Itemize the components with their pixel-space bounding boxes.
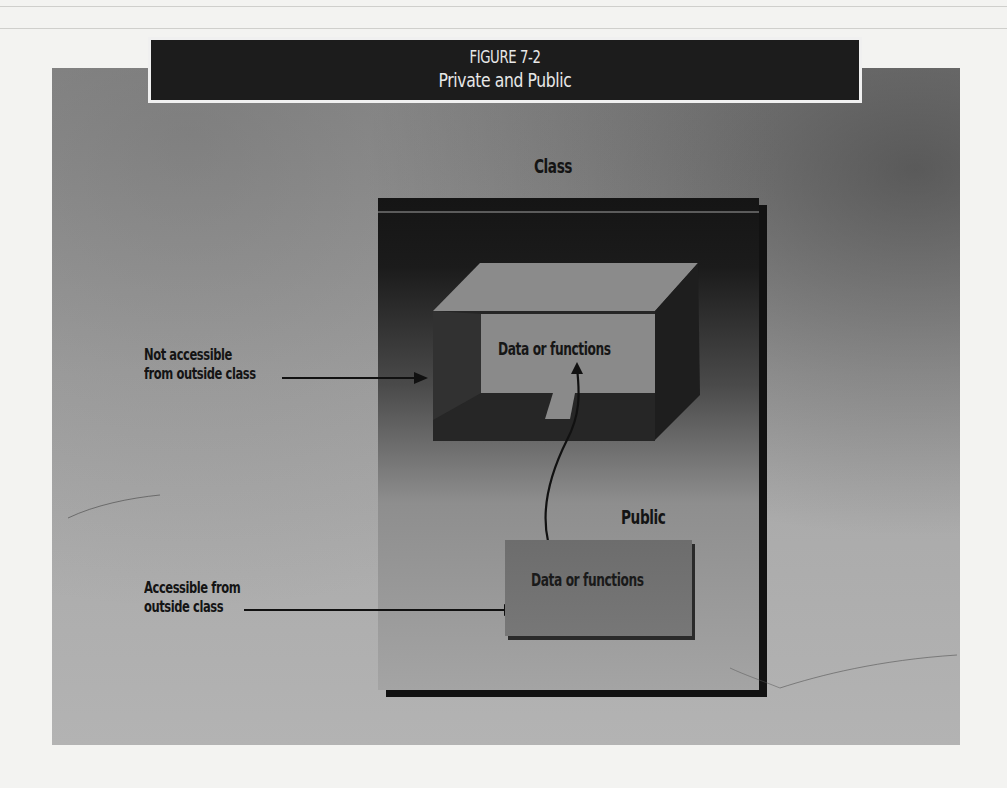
not-accessible-label: Not accessible from outside class	[144, 345, 256, 383]
not-accessible-arrowhead	[414, 372, 428, 384]
public-data-text: Data or functions	[531, 570, 644, 590]
public-label: Public	[621, 506, 665, 528]
not-accessible-line-2: from outside class	[144, 364, 256, 383]
private-section-graphic	[0, 0, 1007, 788]
scratch-mark	[730, 668, 780, 688]
not-accessible-line-1: Not accessible	[144, 345, 256, 364]
accessible-line-1: Accessible from	[144, 578, 240, 597]
private-data-text: Data or functions	[498, 339, 611, 359]
scratch-mark	[780, 655, 957, 688]
accessible-label: Accessible from outside class	[144, 578, 240, 616]
accessible-line-2: outside class	[144, 597, 240, 616]
scratch-mark	[68, 495, 160, 518]
private-box-top-face	[433, 263, 698, 311]
